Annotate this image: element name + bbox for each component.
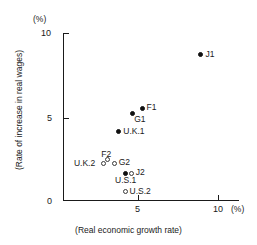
data-point-label-uk1: U.K.1 — [123, 127, 144, 136]
x-tick-10 — [218, 195, 219, 201]
data-point-label-f1: F1 — [147, 103, 157, 112]
x-axis-line — [63, 200, 239, 201]
y-tick-5 — [63, 118, 69, 119]
data-point-uk1 — [116, 129, 121, 134]
x-tick-5 — [138, 195, 139, 201]
data-point-j1 — [198, 52, 203, 57]
y-axis-title: (Rate of increase in real wages) — [14, 45, 24, 175]
data-point-f1 — [140, 106, 145, 111]
y-tick-10 — [63, 33, 69, 34]
data-point-label-uk2: U.K.2 — [74, 159, 95, 168]
y-tick-label-10: 10 — [41, 28, 51, 38]
y-axis-line — [63, 33, 64, 201]
data-point-g2 — [112, 161, 117, 166]
y-axis-unit: (%) — [33, 14, 46, 24]
data-point-label-g1: G1 — [134, 115, 145, 124]
data-point-label-j2: J2 — [136, 168, 145, 177]
scatter-chart: 10 5 0 5 10 (%) (%) (Rate of increase in… — [0, 0, 257, 245]
y-tick-label-0: 0 — [47, 196, 52, 206]
x-axis-unit: (%) — [231, 204, 244, 214]
data-point-label-us1: U.S.1 — [115, 176, 136, 185]
x-axis-title: (Real economic growth rate) — [0, 225, 257, 235]
data-point-label-us2: U.S.2 — [130, 187, 151, 196]
x-tick-label-5: 5 — [135, 204, 140, 214]
data-point-label-j1: J1 — [205, 50, 214, 59]
data-point-j2 — [129, 171, 134, 176]
y-tick-label-5: 5 — [47, 113, 52, 123]
x-tick-label-10: 10 — [213, 204, 223, 214]
data-point-us2 — [123, 189, 128, 194]
data-point-label-g2: G2 — [119, 158, 130, 167]
data-point-uk2 — [105, 157, 110, 162]
